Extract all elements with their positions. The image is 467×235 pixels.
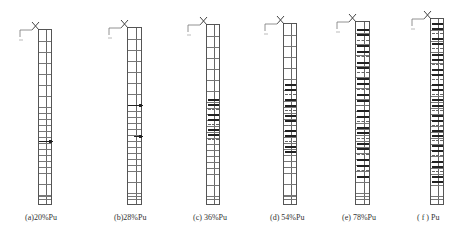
crack-mark <box>432 64 443 65</box>
crack-mark <box>208 99 219 101</box>
mesh-line <box>128 182 141 183</box>
crack-mark <box>432 166 443 168</box>
support-symbol-icon <box>263 15 287 37</box>
crack-mark <box>357 127 369 129</box>
crack-mark <box>432 110 443 111</box>
crack-dot <box>139 135 142 138</box>
mesh-divider <box>46 30 47 204</box>
mesh-line <box>39 149 51 150</box>
panel-caption-d: (d) 54%Pu <box>270 213 304 222</box>
mesh-line <box>207 199 219 200</box>
crack-mark <box>285 125 296 126</box>
mesh-line <box>207 156 219 157</box>
crack-mark <box>357 100 369 102</box>
mesh-line <box>284 199 296 200</box>
crack-mark <box>432 140 443 141</box>
crack-mark <box>432 79 443 80</box>
crack-mark <box>357 154 369 155</box>
mesh-divider <box>136 28 137 204</box>
crack-mark <box>432 105 443 107</box>
mesh-line <box>284 79 296 80</box>
crack-dot <box>139 104 142 107</box>
mesh-line <box>284 107 296 108</box>
panel-caption-e: (e) 78%Pu <box>342 213 376 222</box>
mesh-line <box>207 185 219 186</box>
mesh-line <box>128 123 141 124</box>
mesh-line <box>39 155 51 156</box>
crack-mark <box>432 43 443 45</box>
crack-mark <box>357 78 369 80</box>
mesh-line <box>39 196 51 197</box>
mesh-line <box>356 135 369 136</box>
crack-mark <box>357 83 369 85</box>
crack-mark <box>285 141 296 142</box>
mesh-line <box>356 199 369 200</box>
mesh-line <box>431 185 443 186</box>
mesh-line <box>207 150 219 151</box>
mesh-line <box>128 117 141 118</box>
crack-mark <box>432 84 443 86</box>
support-symbol-icon <box>410 10 434 32</box>
crack-mark <box>285 89 296 91</box>
mesh-line <box>39 96 51 97</box>
crack-mark <box>357 51 369 53</box>
mesh-line <box>128 153 141 154</box>
crack-mark <box>357 116 369 118</box>
mesh-line <box>284 155 296 156</box>
mesh-line <box>207 102 219 103</box>
crack-mark <box>208 104 219 106</box>
mesh-line <box>207 126 219 127</box>
crack-mark <box>208 114 219 116</box>
mesh-line <box>284 113 296 114</box>
mesh-line <box>207 132 219 133</box>
crack-mark <box>432 54 443 56</box>
crack-mark <box>432 171 443 172</box>
mesh-line <box>356 129 369 130</box>
crack-mark <box>285 115 296 117</box>
mesh-line <box>284 68 296 69</box>
crack-mark <box>357 132 369 134</box>
column-mesh-c <box>206 24 220 205</box>
mesh-line <box>128 199 141 200</box>
crack-mark <box>285 94 296 95</box>
mesh-line <box>207 162 219 163</box>
column-mesh-f <box>430 18 444 205</box>
crack-mark <box>357 143 369 145</box>
crack-mark <box>285 105 296 107</box>
mesh-line <box>128 141 141 142</box>
crack-mark <box>357 176 369 178</box>
mesh-line <box>431 199 443 200</box>
panel-caption-f: ( f ) Pu <box>417 213 439 222</box>
mesh-line <box>128 193 141 194</box>
crack-mark <box>208 119 219 121</box>
crack-mark <box>432 181 443 183</box>
crack-mark <box>357 110 369 112</box>
crack-mark <box>285 99 296 101</box>
mesh-line <box>284 196 296 197</box>
crack-mark <box>285 135 296 137</box>
mesh-line <box>356 196 369 197</box>
crack-mark <box>357 105 369 106</box>
crack-mark <box>357 72 369 73</box>
mesh-line <box>207 58 219 59</box>
mesh-line <box>39 107 51 108</box>
mesh-line <box>39 184 51 185</box>
mesh-line <box>39 137 51 138</box>
crack-mark <box>432 89 443 91</box>
crack-mark <box>432 125 443 126</box>
crack-mark <box>432 94 443 95</box>
crack-mark <box>432 130 443 132</box>
crack-mark <box>357 159 369 161</box>
column-mesh-b <box>127 27 142 205</box>
crack-mark <box>357 67 369 69</box>
mesh-line <box>128 171 141 172</box>
mesh-line <box>356 182 369 183</box>
crack-mark <box>432 150 443 152</box>
crack-mark <box>285 151 296 153</box>
mesh-line <box>128 159 141 160</box>
mesh-line <box>39 143 51 144</box>
mesh-line <box>128 111 141 112</box>
crack-mark <box>357 148 369 150</box>
crack-mark <box>432 120 443 122</box>
mesh-line <box>207 47 219 48</box>
